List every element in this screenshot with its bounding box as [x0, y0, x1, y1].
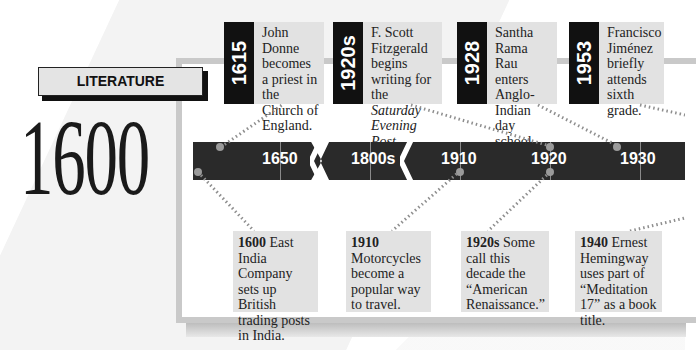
timeline-dot	[194, 168, 202, 176]
timeline-dot	[546, 168, 554, 176]
bottom-event-card: 1920s Some call this decade the “America…	[461, 231, 549, 312]
bottom-event-card: 1600 East India Company sets up British …	[233, 231, 318, 312]
timeline-dot	[613, 143, 621, 151]
bottom-event-card: 1940 Ernest Hemingway uses part of “Medi…	[575, 231, 662, 312]
timeline-dot	[216, 143, 224, 151]
bottom-event-card: 1910Motorcycles become a popular way to …	[346, 231, 431, 312]
timeline-dot	[546, 143, 554, 151]
timeline-dot	[456, 168, 464, 176]
